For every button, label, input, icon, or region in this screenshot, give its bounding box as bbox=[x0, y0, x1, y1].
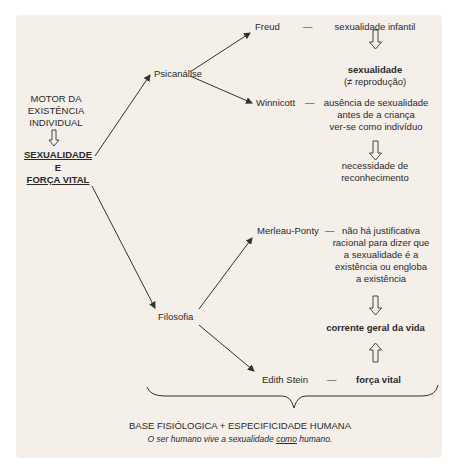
arrow-edith-stein bbox=[199, 325, 254, 371]
psicanalise-label: Psicanálise bbox=[154, 68, 202, 80]
filosofia-label: Filosofia bbox=[158, 311, 193, 323]
winnicott-result: necessidade de reconhecimento bbox=[325, 160, 425, 184]
curly-brace bbox=[147, 385, 438, 408]
arrow-merleau-ponty bbox=[199, 238, 252, 309]
motor-line-1: MOTOR DA bbox=[26, 93, 86, 105]
footer-title: BASE FISIÓLOGICA + ESPECIFICIDADE HUMANA bbox=[120, 420, 360, 432]
merleau-ponty-text: não há justificativa racional para dizer… bbox=[326, 225, 436, 285]
main-line-forca-vital: FORÇA VITAL bbox=[22, 174, 94, 187]
winnicott-dash: — bbox=[305, 97, 315, 109]
root-motor: MOTOR DA EXISTÊNCIA INDIVIDUAL bbox=[26, 93, 86, 129]
winnicott-line-1: ausência de sexualidade bbox=[317, 97, 435, 109]
arrow-freud bbox=[190, 33, 250, 72]
arrow-root-psicanalise bbox=[95, 75, 150, 156]
caption-part-3: humano. bbox=[297, 434, 332, 444]
merleau-ponty-label: Merleau-Ponty bbox=[257, 225, 319, 237]
arrow-winnicott bbox=[190, 76, 252, 103]
caption-underlined: como bbox=[276, 434, 297, 444]
corrente-geral: corrente geral da vida bbox=[318, 322, 433, 334]
freud-dash: — bbox=[303, 21, 313, 33]
motor-line-2: EXISTÊNCIA bbox=[26, 105, 86, 117]
winnicott-result-line-1: necessidade de bbox=[325, 160, 425, 172]
root-main: SEXUALIDADE E FORÇA VITAL bbox=[22, 149, 94, 187]
winnicott-line-3: ver-se como indivíduo bbox=[317, 121, 435, 133]
main-line-sexualidade: SEXUALIDADE bbox=[22, 149, 94, 162]
mp-line-5: a existência bbox=[326, 273, 436, 285]
arrow-root-filosofia bbox=[92, 186, 155, 308]
winnicott-label: Winnicott bbox=[256, 97, 295, 109]
winnicott-text: ausência de sexualidade antes de a crian… bbox=[317, 97, 435, 133]
mp-line-1: não há justificativa bbox=[326, 225, 436, 237]
mp-line-3: a sexualidade é a bbox=[326, 249, 436, 261]
winnicott-result-line-2: reconhecimento bbox=[325, 172, 425, 184]
edith-stein-label: Edith Stein bbox=[262, 374, 308, 386]
mp-line-4: existência ou engloba bbox=[326, 261, 436, 273]
freud-text: sexualidade infantil bbox=[325, 21, 425, 33]
edith-stein-dash: — bbox=[327, 374, 337, 386]
main-line-e: E bbox=[22, 162, 94, 175]
footer-caption: O ser humano vive a sexualidade como hum… bbox=[120, 433, 360, 445]
freud-label: Freud bbox=[255, 21, 280, 33]
mp-line-2: racional para dizer que bbox=[326, 237, 436, 249]
freud-result: sexualidade bbox=[325, 64, 425, 76]
winnicott-line-2: antes de a criança bbox=[317, 109, 435, 121]
freud-result-note: (≠ reprodução) bbox=[325, 76, 425, 88]
edith-stein-text: força vital bbox=[356, 374, 401, 386]
caption-part-1: O ser humano vive a sexualidade bbox=[148, 434, 277, 444]
motor-line-3: INDIVIDUAL bbox=[26, 117, 86, 129]
